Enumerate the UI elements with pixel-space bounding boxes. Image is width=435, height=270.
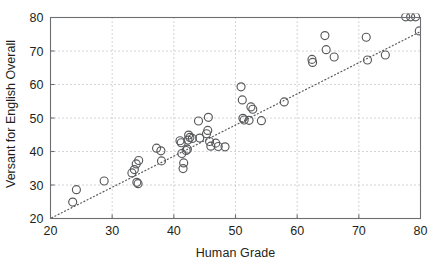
svg-text:80: 80	[30, 11, 44, 25]
svg-text:80: 80	[414, 224, 428, 238]
plot-area-svg: 2030405060708020304050607080	[0, 0, 435, 270]
trendline	[52, 32, 421, 218]
svg-text:40: 40	[167, 224, 181, 238]
svg-text:50: 50	[229, 224, 243, 238]
svg-text:60: 60	[30, 78, 44, 92]
svg-text:40: 40	[30, 145, 44, 159]
data-points	[69, 13, 424, 206]
svg-text:50: 50	[30, 112, 44, 126]
svg-text:70: 70	[352, 224, 366, 238]
svg-text:60: 60	[290, 224, 304, 238]
scatter-chart-figure: Versant for English Overall 203040506070…	[0, 0, 435, 270]
axis-tick-labels: 2030405060708020304050607080	[30, 11, 428, 238]
gridlines	[51, 18, 421, 219]
svg-text:20: 20	[44, 224, 58, 238]
x-axis-label-container: Human Grade	[50, 243, 421, 261]
svg-text:30: 30	[30, 179, 44, 193]
svg-text:20: 20	[30, 212, 44, 226]
svg-text:70: 70	[30, 45, 44, 59]
x-axis-label: Human Grade	[196, 246, 276, 260]
axis-ticks	[51, 51, 359, 219]
svg-text:30: 30	[105, 224, 119, 238]
